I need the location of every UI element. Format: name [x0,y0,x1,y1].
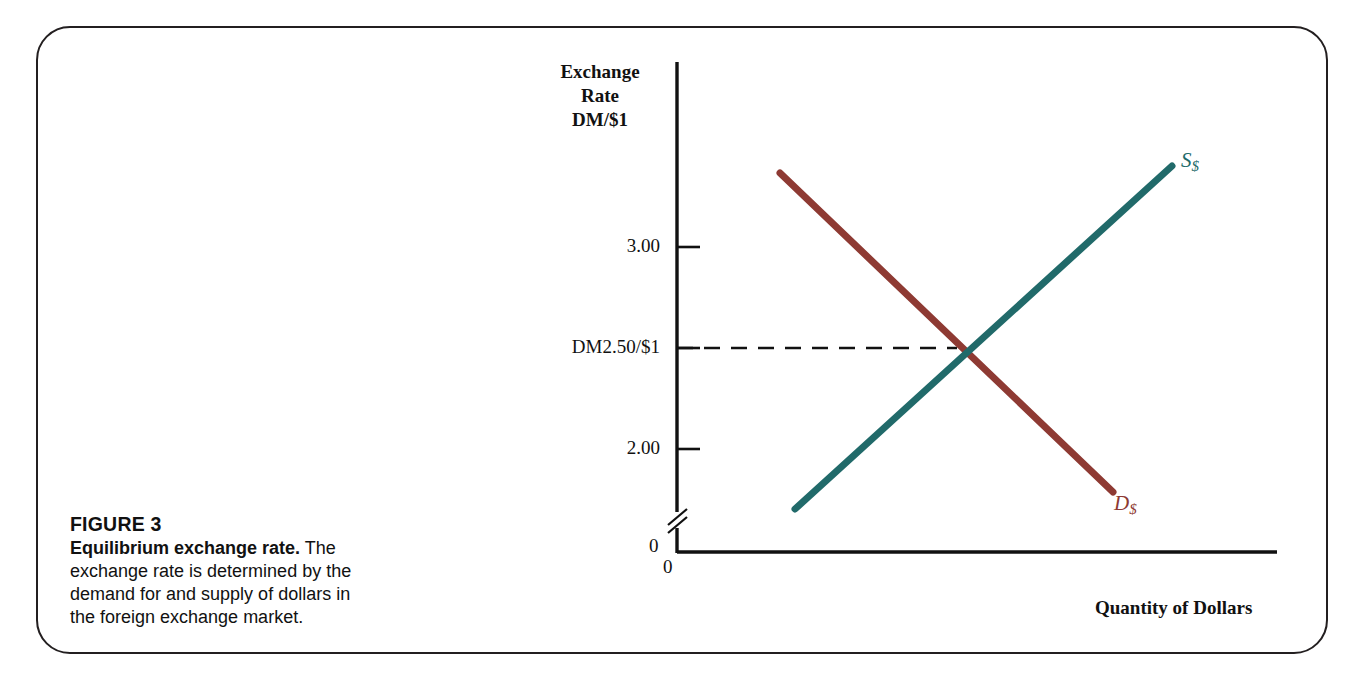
demand-label-letter: D [1114,491,1129,515]
y-tick-label-equilibrium: DM2.50/$1 [440,336,660,358]
demand-label-subscript: $ [1129,501,1137,517]
x-axis-title: Quantity of Dollars [1095,597,1252,619]
figure-caption: FIGURE 3 Equilibrium exchange rate. The … [70,513,375,629]
y-axis-origin-label: 0 [649,535,659,557]
supply-label-letter: S [1181,148,1192,172]
y-axis-title-line-1: Exchange [540,60,660,84]
supply-label-subscript: $ [1192,158,1200,174]
caption-lead: Equilibrium exchange rate. [70,538,300,558]
y-axis-title-line-3: DM/$1 [540,108,660,132]
x-axis-origin-label: 0 [663,556,673,578]
y-axis-title-line-2: Rate [540,84,660,108]
y-axis-title: Exchange Rate DM/$1 [540,60,660,132]
y-tick-label-2.00: 2.00 [500,437,660,459]
supply-curve-label: S$ [1181,148,1199,175]
figure-number: FIGURE 3 [70,513,375,536]
caption-body: Equilibrium exchange rate. The exchange … [70,537,375,629]
demand-curve-label: D$ [1114,491,1137,518]
y-tick-label-3.00: 3.00 [500,235,660,257]
figure-page: FIGURE 3 Equilibrium exchange rate. The … [0,0,1364,687]
